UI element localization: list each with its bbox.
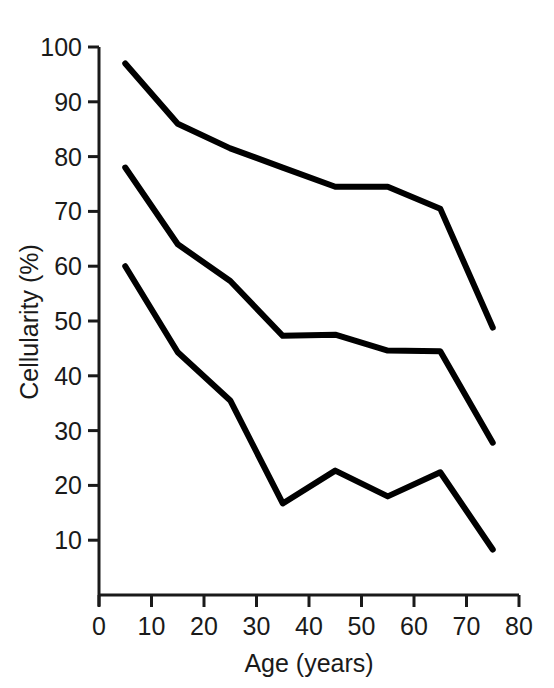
y-tick-label: 40 xyxy=(54,362,82,390)
chart-figure: 102030405060708090100 01020304050607080 … xyxy=(0,0,554,688)
y-tick-label: 10 xyxy=(54,526,82,554)
y-tick-label: 90 xyxy=(54,88,82,116)
y-tick-label: 30 xyxy=(54,417,82,445)
x-axis-title: Age (years) xyxy=(244,649,373,677)
x-tick-label: 60 xyxy=(400,612,428,640)
y-tick-label: 60 xyxy=(54,252,82,280)
x-tick-label: 10 xyxy=(138,612,166,640)
x-tick-label: 70 xyxy=(453,612,481,640)
y-tick-label: 100 xyxy=(40,33,82,61)
y-axis-title: Cellularity (%) xyxy=(15,244,43,400)
x-tick-label: 80 xyxy=(505,612,533,640)
x-tick-label: 0 xyxy=(92,612,106,640)
y-tick-label: 20 xyxy=(54,471,82,499)
y-tick-label: 80 xyxy=(54,143,82,171)
x-tick-label: 50 xyxy=(348,612,376,640)
plot-background xyxy=(0,0,554,688)
x-tick-label: 40 xyxy=(295,612,323,640)
x-tick-label: 30 xyxy=(243,612,271,640)
cellularity-vs-age-line-chart: 102030405060708090100 01020304050607080 … xyxy=(0,0,554,688)
y-tick-label: 50 xyxy=(54,307,82,335)
x-tick-label: 20 xyxy=(190,612,218,640)
y-tick-label: 70 xyxy=(54,197,82,225)
